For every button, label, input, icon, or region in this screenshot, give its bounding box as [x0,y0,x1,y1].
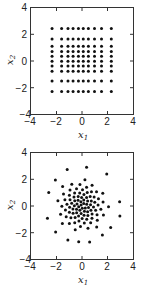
data-point [90,199,93,202]
data-point [77,215,80,218]
data-point [93,64,96,67]
data-point [88,240,91,243]
data-point [51,55,54,58]
data-point [97,204,100,207]
data-point [100,27,103,30]
svg-text:2: 2 [21,174,27,185]
data-point [78,183,81,186]
data-point [80,196,83,199]
data-point [66,80,69,83]
data-point [72,27,75,30]
data-point [73,204,76,207]
data-point [72,50,75,53]
data-point [85,218,88,221]
data-point [72,64,75,67]
data-point [82,50,85,53]
data-point [51,70,54,73]
data-point [72,45,75,48]
y-axis-label: x2 [4,199,17,210]
data-point [85,203,88,206]
svg-text:2: 2 [104,261,110,272]
data-point [70,183,73,186]
data-point [60,205,63,208]
data-point [60,45,63,48]
data-point [72,60,75,63]
svg-text:4: 4 [21,2,27,13]
data-point [77,199,80,202]
data-point [82,193,85,196]
data-point [82,90,85,93]
data-point [71,208,74,211]
data-point [87,206,90,209]
data-point [59,213,62,216]
data-point [76,202,79,205]
data-point [110,50,113,53]
data-point [93,90,96,93]
data-point [54,179,57,182]
data-point [66,38,69,41]
data-point [86,200,89,203]
data-point [86,210,89,213]
svg-text:−4: −4 [24,261,36,272]
data-point [81,188,84,191]
data-point [84,207,87,210]
data-point [60,80,63,83]
data-point [90,190,93,193]
data-point [81,217,84,220]
y-axis-label: x2 [4,54,17,65]
data-point [73,192,76,195]
data-point [56,199,59,202]
data-point [66,60,69,63]
svg-text:2: 2 [21,29,27,40]
data-point [89,203,92,206]
data-point [110,38,113,41]
data-point [60,64,63,67]
data-point [77,64,80,67]
data-point [66,238,69,241]
data-point [82,64,85,67]
data-point [78,209,81,212]
data-point [68,222,71,225]
data-point [66,45,69,48]
data-point [93,50,96,53]
data-point [100,38,103,41]
data-point [60,27,63,30]
data-point [83,214,86,217]
data-point [95,226,98,229]
data-point [51,90,54,93]
data-point [60,70,63,73]
data-point [68,206,71,209]
data-point [77,45,80,48]
data-point [82,55,85,58]
spiral-scatter-plot: 4 2 0 −2 −4 −4 −2 0 2 4 x1 x2 [0,145,148,289]
data-point [90,217,93,220]
data-point [66,55,69,58]
data-point [60,38,63,41]
data-point [93,70,96,73]
data-point [70,202,73,205]
svg-text:4: 4 [130,116,136,127]
data-point [87,64,90,67]
data-point [82,202,85,205]
data-point [74,228,77,231]
svg-text:0: 0 [21,56,27,67]
data-point [51,64,54,67]
data-point [60,50,63,53]
data-point [77,27,80,30]
data-point [77,219,80,222]
data-point [68,194,71,197]
data-point [66,64,69,67]
data-point [83,178,86,181]
data-point [93,38,96,41]
data-point [118,214,121,217]
data-point [82,27,85,30]
data-point [100,60,103,63]
data-point [110,27,113,30]
data-point [82,60,85,63]
data-point [93,45,96,48]
data-point [87,55,90,58]
spiral-scatter-panel: 4 2 0 −2 −4 −4 −2 0 2 4 x1 x2 [0,145,148,289]
data-point [109,226,112,229]
data-point [77,80,80,83]
data-point [82,70,85,73]
